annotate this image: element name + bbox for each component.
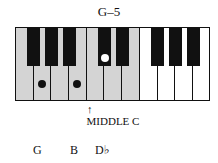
middle-c-arrow-icon: ↑ — [87, 103, 93, 115]
note-dot-d-flat — [101, 54, 109, 62]
black-key-a-sharp-2 — [187, 28, 200, 66]
piano-keyboard — [15, 27, 210, 101]
black-key-g-sharp — [45, 28, 58, 66]
black-key-f-sharp — [27, 28, 40, 66]
note-label-d-flat: D♭ — [95, 143, 109, 158]
black-key-a-sharp — [63, 28, 76, 66]
black-key-g-sharp-2 — [169, 28, 182, 66]
note-label-g: G — [33, 143, 42, 158]
black-key-d-sharp — [116, 28, 129, 66]
note-dot-g — [38, 80, 46, 88]
chord-title: G–5 — [0, 4, 218, 20]
black-key-f-sharp-2 — [151, 28, 164, 66]
note-dot-b — [73, 80, 81, 88]
middle-c-label: MIDDLE C — [0, 115, 218, 127]
black-key-c-sharp — [98, 28, 111, 66]
note-label-b: B — [70, 143, 78, 158]
